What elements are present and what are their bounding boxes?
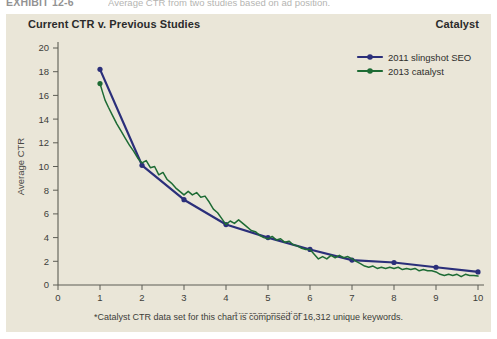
- legend-marker-icon: [367, 54, 373, 60]
- x-tick-label: 2: [139, 292, 144, 303]
- x-tick-label: 0: [55, 292, 60, 303]
- y-tick-label: 10: [38, 161, 49, 172]
- x-tick-label: 5: [265, 292, 270, 303]
- data-point-marker: [433, 265, 438, 270]
- y-tick-label: 14: [38, 114, 49, 125]
- chart-footnote: *Catalyst CTR data set for this chart is…: [6, 312, 491, 322]
- exhibit-caption: EXHIBIT 12-6 Average CTR from two studie…: [0, 0, 497, 14]
- chart-legend[interactable]: 2011 slingshot SEO2013 catalyst: [358, 52, 471, 77]
- legend-label: 2013 catalyst: [388, 66, 444, 77]
- y-tick-label: 16: [38, 90, 49, 101]
- x-tick-label: 8: [391, 292, 396, 303]
- x-tick-label: 9: [433, 292, 438, 303]
- y-tick-label: 0: [44, 279, 49, 290]
- page-bottom-margin: [0, 332, 497, 339]
- line-chart-svg: 02468101214161820012345678910 2011 sling…: [6, 14, 491, 314]
- legend-item[interactable]: 2011 slingshot SEO: [358, 52, 471, 63]
- y-tick-label: 8: [44, 185, 49, 196]
- legend-label: 2011 slingshot SEO: [388, 52, 471, 63]
- plot-area: 02468101214161820012345678910 2011 sling…: [6, 14, 491, 332]
- x-tick-label: 1: [97, 292, 102, 303]
- y-tick-label: 12: [38, 137, 49, 148]
- y-tick-label: 20: [38, 42, 49, 53]
- x-tick-label: 10: [473, 292, 484, 303]
- data-point-marker: [181, 197, 186, 202]
- series-line: [100, 84, 478, 277]
- x-tick-label: 7: [349, 292, 354, 303]
- footnote-text: *Catalyst CTR data set for this chart is…: [94, 312, 403, 322]
- y-tick-label: 4: [44, 232, 49, 243]
- data-point-marker: [97, 67, 102, 72]
- y-tick-label: 6: [44, 208, 49, 219]
- y-tick-label: 18: [38, 66, 49, 77]
- x-tick-label: 3: [181, 292, 186, 303]
- chart-panel: Current CTR v. Previous Studies Catalyst…: [6, 14, 491, 332]
- data-point-marker: [391, 260, 396, 265]
- page-right-margin: [491, 14, 497, 339]
- legend-item[interactable]: 2013 catalyst: [358, 66, 444, 77]
- legend-marker-icon: [367, 68, 373, 74]
- figure-root: EXHIBIT 12-6 Average CTR from two studie…: [0, 0, 497, 339]
- exhibit-caption-text: Average CTR from two studies based on ad…: [108, 0, 330, 8]
- y-tick-label: 2: [44, 256, 49, 267]
- data-point-marker: [97, 81, 102, 86]
- series-lines: [97, 67, 480, 277]
- x-tick-label: 6: [307, 292, 312, 303]
- x-tick-label: 4: [223, 292, 228, 303]
- y-axis-title: Average CTR: [15, 138, 26, 196]
- data-point-marker: [475, 269, 480, 274]
- exhibit-label: EXHIBIT 12-6: [6, 0, 74, 8]
